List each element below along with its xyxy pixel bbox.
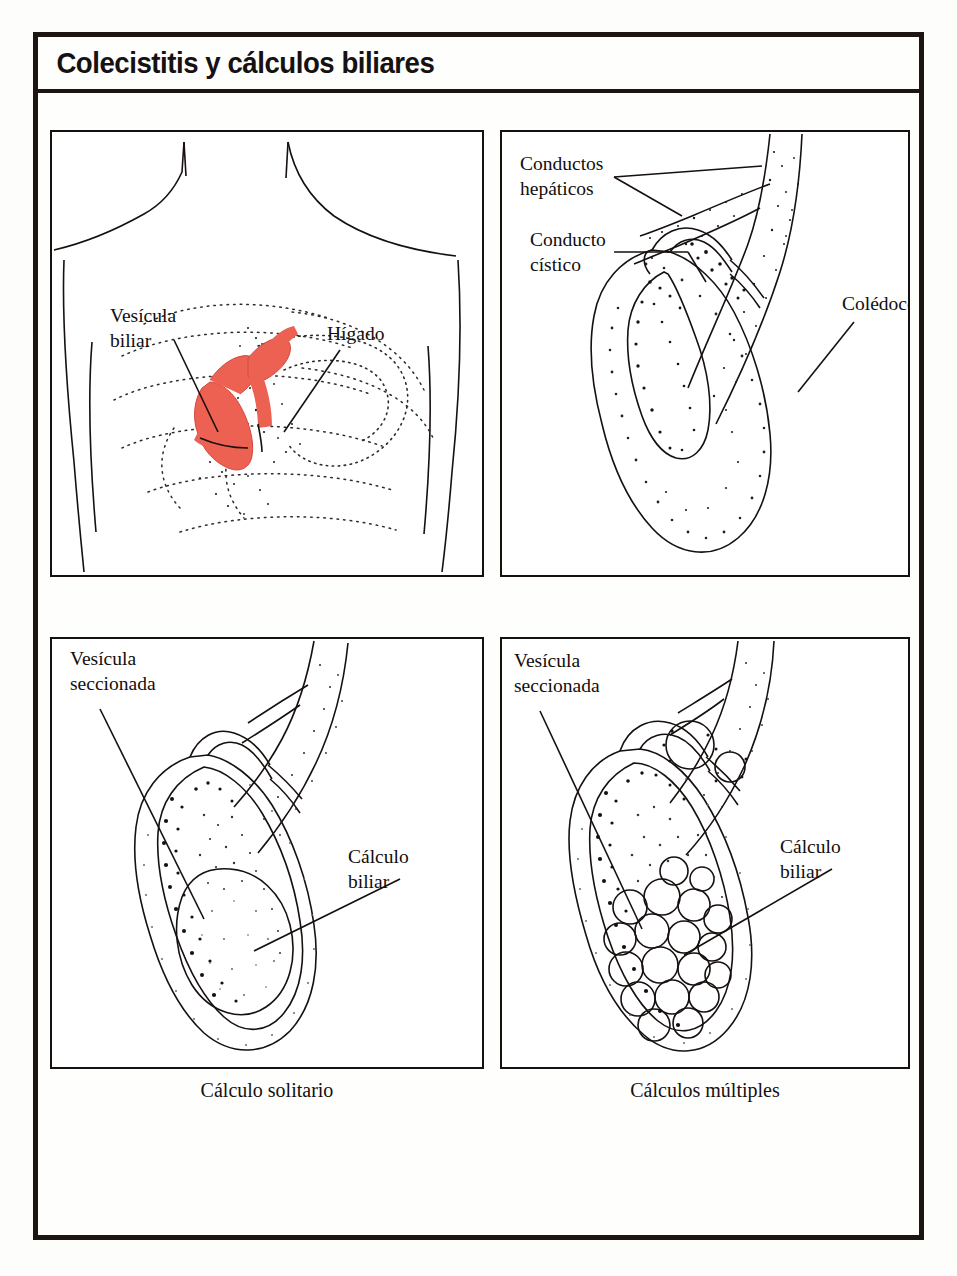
- gallbladder-highlight: [194, 326, 298, 470]
- label-liver: Hígado: [327, 322, 384, 347]
- label-sectioned-gallbladder: Vesícula seccionada: [70, 647, 156, 697]
- panel-biliary-ducts: Conductos hepáticos Conducto cístico Col…: [500, 130, 910, 577]
- label-common-bile-duct: Colédoco: [842, 292, 910, 317]
- multiple-stones-figure: [502, 639, 908, 1067]
- panel-single-stone: Vesícula seccionada Cálculo biliar: [50, 637, 484, 1069]
- label-gallstone: Cálculo biliar: [780, 835, 841, 885]
- panels-container: Vesícula biliar Hígado: [38, 97, 919, 1235]
- label-cystic-duct: Conducto cístico: [530, 228, 606, 278]
- label-gallbladder: Vesícula biliar: [110, 304, 176, 354]
- panel-multiple-stones: Vesícula seccionada Cálculo biliar: [500, 637, 910, 1069]
- panel-torso-anatomy: Vesícula biliar Hígado: [50, 130, 484, 577]
- page-title: Colecistitis y cálculos biliares: [38, 46, 434, 80]
- title-bar: Colecistitis y cálculos biliares: [38, 37, 919, 93]
- caption-single-stone: Cálculo solitario: [50, 1079, 484, 1102]
- page-background: Colecistitis y cálculos biliares: [0, 0, 957, 1276]
- single-stone-figure: [52, 639, 482, 1067]
- illustration-frame: Colecistitis y cálculos biliares: [33, 32, 924, 1240]
- caption-multiple-stones: Cálculos múltiples: [500, 1079, 910, 1102]
- label-hepatic-ducts: Conductos hepáticos: [520, 152, 603, 202]
- multiple-stones-leader-lines: [502, 639, 908, 1067]
- label-sectioned-gallbladder: Vesícula seccionada: [514, 649, 600, 699]
- single-stone-leader-lines: [52, 639, 482, 1067]
- label-gallstone: Cálculo biliar: [348, 845, 409, 895]
